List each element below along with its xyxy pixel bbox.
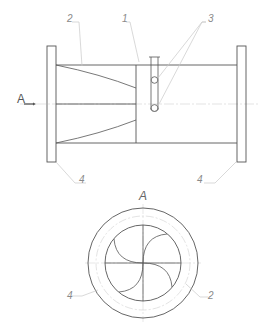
section-view bbox=[72, 204, 208, 322]
view-arrow-label: A bbox=[17, 93, 25, 105]
section-view-title: A bbox=[139, 190, 147, 202]
section-callout-2: 2 bbox=[208, 291, 214, 301]
leader-lines bbox=[56, 22, 236, 183]
technical-drawing bbox=[0, 0, 262, 333]
callout-1: 1 bbox=[122, 14, 128, 24]
callout-2: 2 bbox=[67, 14, 73, 24]
callout-4-right: 4 bbox=[197, 175, 203, 185]
leader-4-section bbox=[72, 290, 98, 296]
callout-4-left: 4 bbox=[79, 175, 85, 185]
leader-2-section bbox=[186, 284, 208, 297]
swirler-blade-upper bbox=[56, 65, 136, 88]
section-callout-4: 4 bbox=[67, 291, 73, 301]
swirler-blade-lower bbox=[56, 120, 136, 143]
callout-3: 3 bbox=[208, 14, 214, 24]
probe-hole-upper bbox=[151, 77, 158, 84]
view-arrow bbox=[24, 103, 36, 106]
